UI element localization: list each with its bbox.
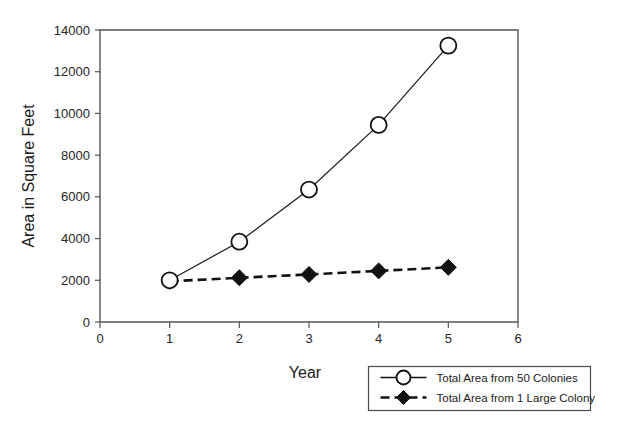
- y-axis: 02000400060008000100001200014000: [54, 23, 100, 330]
- x-tick-label: 0: [96, 331, 103, 346]
- x-tick-label: 2: [236, 331, 243, 346]
- x-tick-label: 4: [375, 331, 382, 346]
- data-point-marker-diamond: [231, 270, 247, 286]
- x-tick-label: 6: [514, 331, 521, 346]
- legend-item-label: Total Area from 1 Large Colony: [437, 392, 596, 404]
- line-chart-svg: 02000400060008000100001200014000 0123456…: [0, 0, 619, 435]
- chart-legend: Total Area from 50 ColoniesTotal Area fr…: [369, 367, 596, 411]
- data-point-marker-diamond: [440, 259, 456, 275]
- y-tick-label: 4000: [61, 231, 90, 246]
- y-tick-label: 12000: [54, 64, 90, 79]
- legend-item-label: Total Area from 50 Colonies: [437, 372, 579, 384]
- y-tick-label: 14000: [54, 23, 90, 38]
- y-tick-label: 0: [83, 315, 90, 330]
- data-point-marker-circle: [162, 272, 178, 288]
- x-tick-label: 5: [445, 331, 452, 346]
- data-point-marker-diamond: [371, 263, 387, 279]
- data-point-marker-circle: [301, 182, 317, 198]
- y-tick-label: 10000: [54, 106, 90, 121]
- y-axis-title: Area in Square Feet: [20, 104, 37, 248]
- legend-marker-circle: [397, 371, 411, 385]
- x-axis: 0123456: [96, 322, 521, 346]
- data-point-marker-circle: [440, 38, 456, 54]
- x-axis-title: Year: [289, 364, 322, 381]
- chart-figure: 02000400060008000100001200014000 0123456…: [0, 0, 619, 435]
- x-tick-label: 1: [166, 331, 173, 346]
- x-tick-label: 3: [305, 331, 312, 346]
- data-point-marker-circle: [231, 234, 247, 250]
- y-tick-label: 8000: [61, 148, 90, 163]
- data-point-marker-diamond: [301, 266, 317, 282]
- data-series-group: [162, 38, 457, 290]
- series-line-1: [170, 46, 449, 281]
- data-point-marker-circle: [371, 117, 387, 133]
- y-tick-label: 2000: [61, 273, 90, 288]
- y-tick-label: 6000: [61, 189, 90, 204]
